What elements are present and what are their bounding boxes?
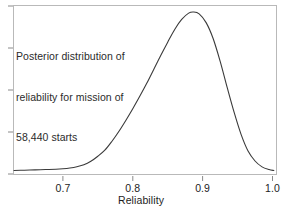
x-axis-title: Reliability <box>0 194 282 206</box>
annotation-line-2: reliability for mission of <box>16 91 125 105</box>
posterior-density-chart: Posterior distribution of reliability fo… <box>0 0 282 207</box>
x-tick-label-1.0: 1.0 <box>265 182 280 194</box>
x-axis-tick-marks <box>63 176 273 181</box>
x-tick-label-0.9: 0.9 <box>195 182 210 194</box>
y-axis-tick-marks <box>8 6 13 174</box>
annotation-line-3: 58,440 starts <box>16 131 125 145</box>
x-tick-label-0.7: 0.7 <box>55 182 70 194</box>
annotation-line-1: Posterior distribution of <box>16 50 125 64</box>
x-tick-label-0.8: 0.8 <box>125 182 140 194</box>
chart-annotation: Posterior distribution of reliability fo… <box>16 23 125 172</box>
